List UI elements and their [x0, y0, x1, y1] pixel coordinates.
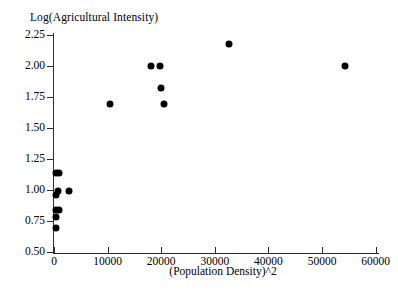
data-points-layer	[0, 0, 398, 299]
data-point	[52, 214, 59, 221]
x-axis-title: (Population Density)^2	[0, 265, 398, 277]
data-point	[226, 40, 233, 47]
data-point	[158, 85, 165, 92]
data-point	[55, 206, 62, 213]
x-axis-title-text: (Population Density)^2	[169, 265, 276, 277]
data-point	[160, 101, 167, 108]
scatter-plot-figure: Log(Agricultural Intensity) 0.500.751.00…	[0, 0, 398, 299]
data-point	[53, 225, 60, 232]
data-point	[156, 63, 163, 70]
data-point	[147, 63, 154, 70]
data-point	[341, 63, 348, 70]
data-point	[52, 192, 59, 199]
data-point	[66, 188, 73, 195]
data-point	[55, 169, 62, 176]
data-point	[106, 101, 113, 108]
